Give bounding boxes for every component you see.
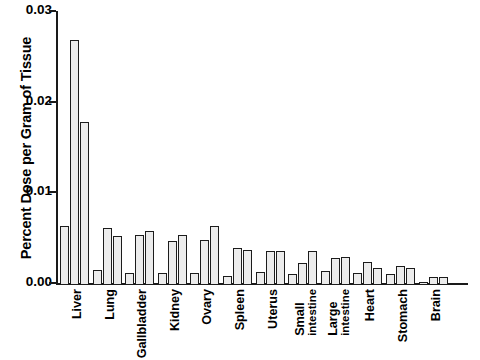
bar (373, 268, 382, 285)
x-axis-category-label: Largeintestine (327, 289, 351, 336)
bar-group (386, 11, 416, 285)
y-axis-tick-mark (49, 101, 56, 103)
bar (158, 273, 167, 285)
bar (353, 273, 362, 285)
x-axis-category-label-line: intestine (307, 289, 318, 336)
bar (419, 282, 428, 285)
bar (200, 240, 209, 285)
bar (363, 262, 372, 285)
y-axis-tick-labels: 0.000.010.020.03 (0, 0, 52, 360)
bar (298, 263, 307, 285)
bar-group (60, 11, 90, 285)
bar (386, 274, 395, 285)
plot-area (56, 11, 468, 285)
bar (341, 257, 350, 285)
bar (135, 235, 144, 285)
x-axis-category-label: Kidney (169, 289, 182, 331)
bar (80, 122, 89, 285)
bar-group (125, 11, 155, 285)
x-axis-category-label: Stomach (397, 289, 410, 342)
x-axis-category-label: Liver (71, 289, 84, 319)
bar-chart-figure: Percent Dose per Gram of Tissue 0.000.01… (0, 0, 480, 360)
bar-group (93, 11, 123, 285)
bar (308, 251, 317, 285)
bar (223, 276, 232, 285)
bar (256, 272, 265, 285)
bar-group (190, 11, 220, 285)
x-axis-category-label: Heart (364, 289, 377, 321)
bar (331, 258, 340, 285)
bar-group (321, 11, 351, 285)
bar (190, 273, 199, 285)
bar (70, 40, 79, 285)
bar (439, 277, 448, 285)
bar (93, 270, 102, 285)
bar (233, 248, 242, 285)
bar (210, 226, 219, 285)
x-axis-category-label: Lung (104, 289, 117, 320)
bar (406, 268, 415, 285)
bar-group (223, 11, 253, 285)
bar (321, 271, 330, 285)
x-axis-category-label: Ovary (201, 289, 214, 325)
bar (103, 228, 112, 285)
x-axis-category-label-line: Small (294, 289, 307, 336)
y-axis-tick-mark (49, 282, 56, 284)
y-axis-tick-mark (49, 191, 56, 193)
bar-group (288, 11, 318, 285)
x-axis-category-label-line: Large (327, 289, 340, 336)
bar (429, 277, 438, 285)
bar (288, 274, 297, 285)
x-axis-category-label: Brain (430, 289, 443, 321)
y-axis-tick-label: 0.00 (8, 275, 52, 289)
x-axis-category-label-line: intestine (339, 289, 350, 336)
bar (60, 226, 69, 285)
bar (145, 231, 154, 285)
bar (266, 251, 275, 285)
bar (125, 273, 134, 285)
x-axis-category-label: Gallbladder (136, 289, 149, 358)
bar-group (158, 11, 188, 285)
y-axis-tick-label: 0.02 (8, 94, 52, 108)
y-axis-tick-label: 0.03 (8, 3, 52, 17)
bar-group (256, 11, 286, 285)
bar (113, 236, 122, 285)
y-axis-tick-label: 0.01 (8, 184, 52, 198)
y-axis-tick-mark (49, 10, 56, 12)
bar (276, 251, 285, 285)
bar (178, 235, 187, 285)
bar-group (419, 11, 449, 285)
bar (396, 266, 405, 285)
x-axis-category-label: Spleen (234, 289, 247, 330)
bar-group (353, 11, 383, 285)
bar (168, 241, 177, 285)
x-axis-category-label: Smallintestine (294, 289, 318, 336)
x-axis-category-label: Uterus (267, 289, 280, 329)
bar (243, 250, 252, 285)
